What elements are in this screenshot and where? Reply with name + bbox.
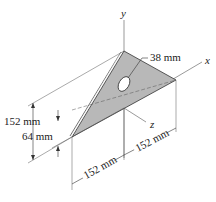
z-axis-line (124, 108, 146, 122)
height-total-label: 152 mm (4, 115, 41, 127)
width-left-label: 152 mm (81, 153, 119, 181)
y-axis-label: y (120, 7, 126, 19)
x-axis-label: x (204, 54, 210, 66)
arrow-icon (56, 146, 60, 151)
plate-diagram: 38 mm z y x 152 mm 64 mm 152 mm 152 mm (0, 0, 216, 202)
height-lower-label: 64 mm (22, 130, 53, 142)
z-axis-label: z (149, 118, 155, 130)
arrow-icon (56, 116, 60, 121)
width-right-label: 152 mm (133, 126, 171, 154)
hole-diameter-label: 38 mm (150, 51, 181, 63)
